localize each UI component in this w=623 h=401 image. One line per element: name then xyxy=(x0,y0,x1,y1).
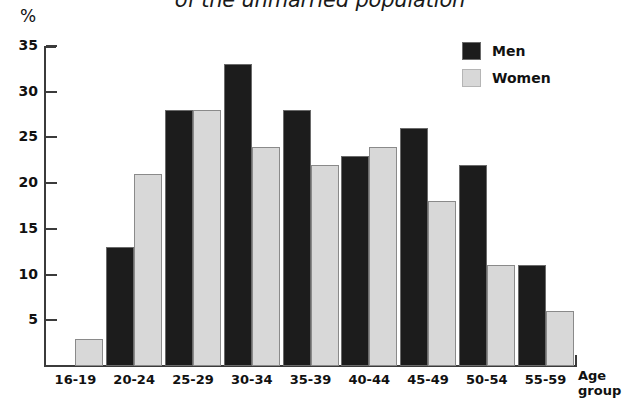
bar-women-55-59 xyxy=(546,311,574,366)
bar-men-55-59 xyxy=(518,265,546,366)
x-label-40-44: 40-44 xyxy=(340,372,399,387)
x-label-45-49: 45-49 xyxy=(399,372,458,387)
bar-women-35-39 xyxy=(311,165,339,366)
bar-women-25-29 xyxy=(193,110,221,366)
bar-men-30-34 xyxy=(224,64,252,366)
y-tick-label-35: 35 xyxy=(0,37,38,53)
bar-men-35-39 xyxy=(283,110,311,366)
x-label-50-54: 50-54 xyxy=(457,372,516,387)
bar-women-30-34 xyxy=(252,147,280,366)
bar-women-16-19 xyxy=(75,339,103,366)
bar-women-50-54 xyxy=(487,265,515,366)
chart-legend: Men Women xyxy=(462,42,551,96)
legend-item-men: Men xyxy=(462,42,551,60)
y-tick-label-20: 20 xyxy=(0,174,38,190)
legend-swatch-men-icon xyxy=(462,42,481,60)
bar-men-20-24 xyxy=(106,247,134,366)
x-label-25-29: 25-29 xyxy=(164,372,223,387)
bar-men-40-44 xyxy=(341,156,369,366)
y-tick-label-10: 10 xyxy=(0,266,38,282)
y-tick-label-15: 15 xyxy=(0,220,38,236)
y-tick-label-5: 5 xyxy=(0,311,38,327)
x-axis-title-line1: Age xyxy=(578,368,623,383)
x-label-55-59: 55-59 xyxy=(516,372,575,387)
legend-label-men: Men xyxy=(492,43,525,59)
y-axis-unit-label: % xyxy=(20,6,36,26)
legend-label-women: Women xyxy=(492,70,551,86)
y-tick-label-30: 30 xyxy=(0,83,38,99)
x-axis-title-line2: group xyxy=(578,383,623,398)
bar-women-45-49 xyxy=(428,201,456,366)
bar-women-20-24 xyxy=(134,174,162,366)
y-tick-label-25: 25 xyxy=(0,128,38,144)
x-label-30-34: 30-34 xyxy=(222,372,281,387)
x-label-20-24: 20-24 xyxy=(105,372,164,387)
bar-women-40-44 xyxy=(369,147,397,366)
chart-title: of the unmarried population xyxy=(120,0,520,12)
bar-men-25-29 xyxy=(165,110,193,366)
legend-item-women: Women xyxy=(462,69,551,87)
x-label-16-19: 16-19 xyxy=(46,372,105,387)
legend-swatch-women-icon xyxy=(462,69,481,87)
bar-men-45-49 xyxy=(400,128,428,366)
x-label-35-39: 35-39 xyxy=(281,372,340,387)
bar-men-50-54 xyxy=(459,165,487,366)
bar-chart: of the unmarried population % 5101520253… xyxy=(0,0,623,401)
x-axis-title: Age group xyxy=(578,368,623,398)
